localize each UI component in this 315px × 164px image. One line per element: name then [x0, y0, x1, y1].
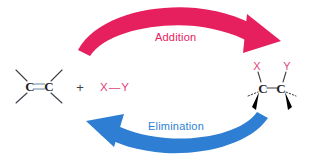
reagent-xy-label: X—Y	[100, 81, 130, 93]
alkene-left-carbon-label: C	[25, 79, 34, 94]
product-substituent-x-label: X	[253, 60, 261, 72]
label-layer: C C + X—Y C C X Y	[0, 0, 315, 164]
elimination-arrow-label: Elimination	[148, 120, 204, 132]
product-right-carbon-label: C	[276, 81, 285, 96]
product-left-carbon-label: C	[258, 81, 267, 96]
product-substituent-y-label: Y	[283, 60, 291, 72]
addition-arrow-label: Addition	[155, 31, 196, 43]
reaction-scheme-figure: C C + X—Y C C X Y Addition Elimination	[0, 0, 315, 164]
alkene-right-carbon-label: C	[44, 79, 53, 94]
plus-sign: +	[76, 80, 84, 95]
